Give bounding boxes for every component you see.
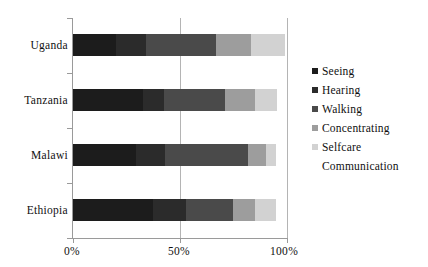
bar-row-malawi bbox=[73, 144, 287, 166]
bar-row-uganda bbox=[73, 34, 287, 56]
stacked-bar bbox=[73, 89, 287, 111]
legend-swatch-icon bbox=[312, 125, 318, 131]
y-tick-label-tanzania: Tanzania bbox=[4, 89, 68, 111]
bar-segment-selfcare bbox=[266, 144, 277, 166]
x-tick-label-50: 50% bbox=[168, 244, 190, 258]
bar-segment-seeing bbox=[73, 144, 136, 166]
bar-segment-walking bbox=[165, 144, 248, 166]
stacked-bar bbox=[73, 199, 287, 221]
y-tick-label-uganda: Uganda bbox=[4, 34, 68, 56]
bar-segment-hearing bbox=[116, 34, 146, 56]
legend-item-hearing[interactable]: Hearing bbox=[312, 81, 426, 100]
gridline-100 bbox=[287, 18, 288, 238]
plot-area bbox=[73, 18, 287, 238]
legend-item-communication[interactable]: Communication bbox=[312, 157, 426, 176]
y-tick-label-ethiopia: Ethiopia bbox=[4, 199, 68, 221]
bar-row-ethiopia bbox=[73, 199, 287, 221]
bar-segment-walking bbox=[146, 34, 217, 56]
x-tick-label-100: 100% bbox=[270, 244, 298, 258]
bar-segment-hearing bbox=[136, 144, 165, 166]
bar-segment-walking bbox=[186, 199, 233, 221]
stacked-bar bbox=[73, 34, 287, 56]
bar-segment-selfcare bbox=[255, 89, 277, 111]
bar-segment-walking bbox=[164, 89, 225, 111]
y-tick-label-malawi: Malawi bbox=[4, 144, 68, 166]
bar-segment-concentrating bbox=[225, 89, 255, 111]
x-tick-mark bbox=[73, 238, 74, 243]
bar-segment-concentrating bbox=[216, 34, 250, 56]
bar-segment-seeing bbox=[73, 199, 153, 221]
stacked-bar-chart: Uganda Tanzania Malawi Ethiopia 0% 50% 1… bbox=[0, 0, 428, 267]
bar-segment-hearing bbox=[153, 199, 186, 221]
legend-item-concentrating[interactable]: Concentrating bbox=[312, 119, 426, 138]
legend-label: Hearing bbox=[322, 81, 360, 100]
legend-item-walking[interactable]: Walking bbox=[312, 100, 426, 119]
bar-segment-selfcare bbox=[251, 34, 285, 56]
legend-swatch-icon bbox=[312, 163, 318, 169]
legend-label: Seeing bbox=[322, 62, 355, 81]
bar-segment-seeing bbox=[73, 89, 143, 111]
x-tick-mark bbox=[180, 238, 181, 243]
legend-swatch-icon bbox=[312, 68, 318, 74]
bar-segment-concentrating bbox=[233, 199, 254, 221]
x-tick-mark bbox=[287, 238, 288, 243]
legend-swatch-icon bbox=[312, 87, 318, 93]
legend-item-selfcare[interactable]: Selfcare bbox=[312, 138, 426, 157]
legend-label: Concentrating bbox=[322, 119, 390, 138]
bar-segment-seeing bbox=[73, 34, 116, 56]
legend-item-seeing[interactable]: Seeing bbox=[312, 62, 426, 81]
bar-segment-selfcare bbox=[255, 199, 276, 221]
legend-label: Selfcare bbox=[322, 138, 361, 157]
legend-swatch-icon bbox=[312, 106, 318, 112]
stacked-bar bbox=[73, 144, 287, 166]
legend-label: Walking bbox=[322, 100, 362, 119]
legend-label: Communication bbox=[322, 157, 399, 176]
y-axis-labels: Uganda Tanzania Malawi Ethiopia bbox=[0, 18, 68, 238]
legend-swatch-icon bbox=[312, 144, 318, 150]
x-tick-label-0: 0% bbox=[64, 244, 80, 258]
bar-row-tanzania bbox=[73, 89, 287, 111]
bar-segment-concentrating bbox=[248, 144, 265, 166]
y-tick-mark bbox=[67, 238, 72, 239]
chart-legend: SeeingHearingWalkingConcentratingSelfcar… bbox=[312, 62, 426, 176]
bar-segment-hearing bbox=[143, 89, 164, 111]
